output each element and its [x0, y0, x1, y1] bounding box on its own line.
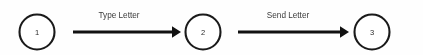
node-2-label: 2 [201, 28, 205, 37]
node-1[interactable]: 1 [20, 15, 55, 50]
edge-send-letter-arrowhead [340, 26, 349, 38]
edge-send-letter-label: Send Letter [267, 11, 310, 20]
node-3-label: 3 [370, 28, 374, 37]
edge-send-letter[interactable]: Send Letter [238, 11, 349, 38]
node-3[interactable]: 3 [355, 15, 390, 50]
edge-type-letter[interactable]: Type Letter [73, 11, 181, 38]
edge-type-letter-label: Type Letter [99, 11, 140, 20]
edge-type-letter-arrowhead [172, 26, 181, 38]
node-1-label: 1 [35, 28, 39, 37]
node-2[interactable]: 2 [186, 15, 221, 50]
state-transition-diagram: Type Letter Send Letter 1 2 3 [0, 0, 423, 55]
diagram-canvas: Type Letter Send Letter 1 2 3 [0, 0, 423, 55]
